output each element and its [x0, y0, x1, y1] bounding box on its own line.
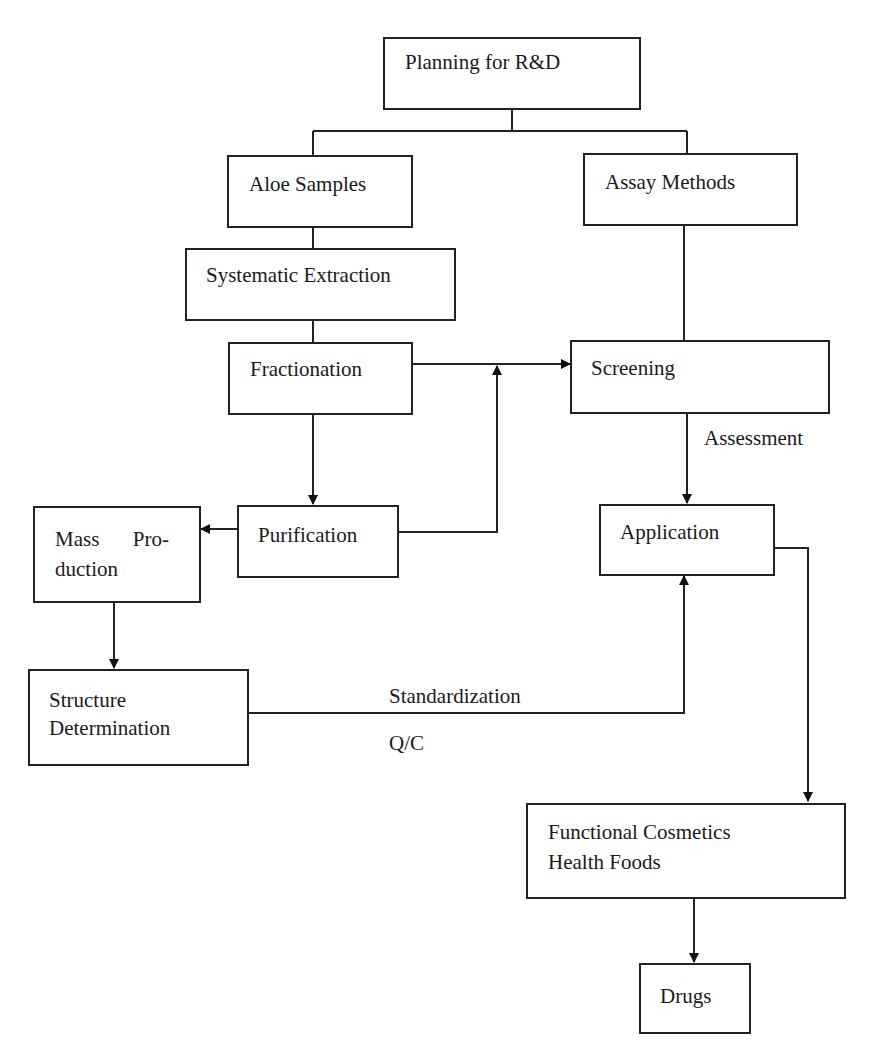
assay-methods-box: Assay Methods [583, 153, 798, 226]
qc-label: Q/C [389, 730, 424, 756]
mass-production-line2: duction [55, 556, 118, 582]
structure-determination-line2: Determination [49, 715, 170, 741]
functional-cosmetics-line1: Functional Cosmetics [548, 819, 731, 845]
aloe-samples-box: Aloe Samples [227, 155, 413, 228]
fractionation-label: Fractionation [250, 356, 362, 382]
drugs-label: Drugs [660, 983, 711, 1009]
standardization-label: Standardization [389, 683, 521, 709]
screening-box: Screening [570, 340, 830, 414]
functional-cosmetics-box: Functional Cosmetics Health Foods [526, 803, 846, 899]
systematic-extraction-box: Systematic Extraction [185, 248, 456, 321]
structure-determination-line1: Structure [49, 687, 126, 713]
mass-production-box: Mass Pro- duction [33, 506, 201, 603]
assessment-label: Assessment [704, 425, 803, 451]
mass-production-word2: Pro- [133, 526, 169, 552]
planning-label: Planning for R&D [405, 49, 560, 75]
application-label: Application [620, 519, 719, 545]
purification-label: Purification [258, 522, 357, 548]
drugs-box: Drugs [639, 963, 751, 1034]
functional-cosmetics-line2: Health Foods [548, 849, 661, 875]
mass-production-word1: Mass [55, 526, 99, 552]
systematic-extraction-label: Systematic Extraction [206, 262, 391, 288]
fractionation-box: Fractionation [228, 342, 413, 415]
assay-methods-label: Assay Methods [605, 169, 735, 195]
planning-box: Planning for R&D [383, 37, 641, 110]
aloe-samples-label: Aloe Samples [249, 171, 366, 197]
application-box: Application [599, 504, 775, 576]
mass-production-line1: Mass Pro- [55, 526, 169, 552]
purification-box: Purification [237, 505, 399, 578]
structure-determination-box: Structure Determination [28, 669, 249, 766]
screening-label: Screening [591, 355, 675, 381]
